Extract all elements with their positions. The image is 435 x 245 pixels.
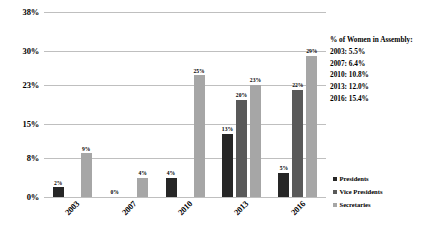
bar-value-label: 25% (193, 69, 204, 75)
bar-value-label: 20% (236, 93, 247, 99)
bar-value-label: 5% (280, 166, 288, 172)
x-axis-tick: 2007 (100, 199, 156, 239)
bar-slot: 4% (166, 12, 177, 197)
y-axis-tick-label: 0% (27, 192, 39, 202)
x-axis-tick-labels: 20032007201020132016 (44, 199, 326, 239)
y-axis-tick-label: 30% (23, 46, 39, 56)
legend-swatch-icon (333, 177, 337, 181)
bar-slot: 0% (109, 12, 120, 197)
annotation-row: 2016: 15.4% (330, 93, 430, 105)
bar-slot: 5% (278, 12, 289, 197)
annotation-row: 2010: 10.8% (330, 69, 430, 81)
x-axis-tick-label: 2007 (119, 199, 138, 218)
legend-swatch-icon (333, 190, 337, 194)
bar-value-label: 13% (222, 127, 233, 133)
annotation-row: 2013: 12.0% (330, 81, 430, 93)
x-axis-tick: 2003 (44, 199, 100, 239)
y-axis-tick-label: 15% (23, 119, 39, 129)
bar-groups: 2%9%0%4%4%25%13%20%23%5%22%29% (44, 12, 326, 197)
legend-swatch-icon (333, 203, 337, 207)
bar-slot (67, 12, 78, 197)
plot-area: 0%8%15%23%30%38% 2%9%0%4%4%25%13%20%23%5… (44, 12, 326, 197)
bar[interactable]: 25% (194, 75, 205, 197)
bar-slot: 23% (250, 12, 261, 197)
bar-value-label: 2% (54, 181, 62, 187)
y-axis-tick-label: 8% (27, 153, 39, 163)
bar[interactable]: 23% (250, 85, 261, 197)
x-axis-tick: 2016 (270, 199, 326, 239)
legend-item[interactable]: Secretaries (333, 198, 383, 211)
x-axis-tick-label: 2003 (63, 199, 82, 218)
bar[interactable]: 4% (166, 178, 177, 197)
bar[interactable]: 4% (137, 178, 148, 197)
legend-item[interactable]: Presidents (333, 172, 383, 185)
annotation-box: % of Women in Assembly: 2003: 5.5% 2007:… (330, 34, 430, 105)
bar-group: 13%20%23% (213, 12, 269, 197)
legend-label: Secretaries (340, 201, 371, 208)
legend-item[interactable]: Vice Presidents (333, 185, 383, 198)
bar[interactable]: 22% (292, 90, 303, 197)
bar-slot: 22% (292, 12, 303, 197)
x-axis-tick: 2013 (213, 199, 269, 239)
bar[interactable]: 9% (81, 153, 92, 197)
bar-chart: 0%8%15%23%30%38% 2%9%0%4%4%25%13%20%23%5… (0, 0, 435, 245)
legend-label: Presidents (340, 175, 369, 182)
bar-value-label: 29% (306, 49, 317, 55)
bar-value-label: 22% (292, 83, 303, 89)
chart-legend: PresidentsVice PresidentsSecretaries (333, 172, 383, 211)
bar[interactable]: 5% (278, 173, 289, 197)
bar-slot: 25% (194, 12, 205, 197)
bar-value-label: 4% (138, 171, 146, 177)
bar[interactable]: 2% (53, 187, 64, 197)
x-axis-tick: 2010 (157, 199, 213, 239)
x-axis-tick-label: 2016 (289, 199, 308, 218)
bar-slot: 29% (306, 12, 317, 197)
annotation-title: % of Women in Assembly: (330, 34, 430, 46)
bar[interactable]: 29% (306, 56, 317, 197)
bar-value-label: 0% (110, 190, 118, 196)
bar-value-label: 9% (82, 147, 90, 153)
bar-slot (123, 12, 134, 197)
bar-slot: 20% (236, 12, 247, 197)
legend-label: Vice Presidents (340, 188, 383, 195)
bar-group: 0%4% (100, 12, 156, 197)
y-axis-tick-label: 38% (23, 7, 39, 17)
gridline: 0% (44, 197, 326, 198)
bar-slot (180, 12, 191, 197)
bar-slot: 4% (137, 12, 148, 197)
annotation-row: 2007: 6.4% (330, 58, 430, 70)
bar-group: 4%25% (157, 12, 213, 197)
bar-value-label: 4% (167, 171, 175, 177)
bar[interactable]: 13% (222, 134, 233, 197)
x-axis-tick-label: 2010 (176, 199, 195, 218)
bar[interactable]: 20% (236, 100, 247, 197)
bar-slot: 9% (81, 12, 92, 197)
bar-group: 2%9% (44, 12, 100, 197)
x-axis-tick-label: 2013 (232, 199, 251, 218)
bar-slot: 2% (53, 12, 64, 197)
annotation-row: 2003: 5.5% (330, 46, 430, 58)
bar-slot: 13% (222, 12, 233, 197)
bar-value-label: 23% (250, 78, 261, 84)
bar-group: 5%22%29% (270, 12, 326, 197)
y-axis-tick-label: 23% (23, 80, 39, 90)
